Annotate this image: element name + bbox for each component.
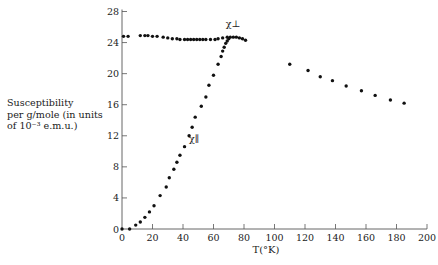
data-point	[192, 38, 195, 41]
data-point	[238, 36, 241, 39]
data-point	[134, 223, 137, 226]
y-tick-label: 24	[107, 37, 119, 48]
series-label: χ⊥	[226, 18, 241, 29]
data-point	[186, 38, 189, 41]
data-point	[213, 38, 216, 41]
data-point	[161, 35, 164, 38]
data-point	[120, 227, 123, 230]
data-point	[288, 63, 291, 66]
data-point	[360, 89, 363, 92]
data-point	[244, 39, 247, 42]
x-tick-label: 180	[387, 232, 405, 243]
data-point	[139, 220, 142, 223]
data-point	[126, 35, 129, 38]
susceptibility-chart: 0204060801001201401601802000481216202428…	[0, 0, 438, 265]
data-point	[166, 36, 169, 39]
data-point	[219, 55, 222, 58]
data-point	[183, 145, 186, 148]
data-points	[120, 34, 406, 231]
data-point	[235, 35, 238, 38]
data-point	[122, 35, 125, 38]
data-point	[158, 194, 161, 197]
data-point	[344, 84, 347, 87]
data-point	[178, 38, 181, 41]
data-point	[200, 105, 203, 108]
data-point	[389, 98, 392, 101]
data-point	[209, 38, 212, 41]
y-tick-label: 16	[107, 99, 119, 110]
data-point	[194, 115, 197, 118]
data-point	[128, 227, 131, 230]
data-point	[222, 46, 225, 49]
data-point	[148, 210, 151, 213]
data-point	[189, 38, 192, 41]
data-point	[204, 95, 207, 98]
data-point	[172, 167, 175, 170]
y-tick-label: 4	[113, 192, 119, 203]
data-point	[183, 38, 186, 41]
x-axis-title: T(°K)	[253, 244, 280, 255]
data-point	[165, 185, 168, 188]
axes	[122, 10, 427, 230]
x-tick-label: 0	[119, 232, 125, 243]
x-tick-label: 40	[177, 232, 189, 243]
x-tick-label: 200	[418, 232, 436, 243]
data-point	[152, 204, 155, 207]
x-tick-label: 160	[357, 232, 375, 243]
data-point	[190, 126, 193, 129]
data-point	[146, 34, 149, 37]
data-point	[221, 49, 224, 52]
data-point	[373, 94, 376, 97]
x-tick-label: 140	[326, 232, 344, 243]
data-point	[201, 38, 204, 41]
x-tick-label: 80	[238, 232, 250, 243]
data-point	[139, 34, 142, 37]
data-point	[168, 176, 171, 179]
y-tick-label: 28	[107, 6, 119, 17]
data-point	[319, 75, 322, 78]
series-label: χ∥	[189, 133, 199, 144]
data-point	[216, 37, 219, 40]
axis-ticks: 0204060801001201401601802000481216202428	[107, 6, 436, 243]
data-point	[331, 79, 334, 82]
y-tick-label: 12	[107, 130, 119, 141]
data-point	[178, 154, 181, 157]
x-tick-label: 100	[265, 232, 283, 243]
y-tick-label: 8	[113, 161, 119, 172]
data-point	[306, 69, 309, 72]
data-point	[227, 37, 230, 40]
series-1	[120, 37, 230, 231]
data-point	[402, 101, 405, 104]
data-point	[175, 37, 178, 40]
data-point	[212, 73, 215, 76]
data-point	[151, 35, 154, 38]
data-point	[232, 35, 235, 38]
data-point	[195, 38, 198, 41]
data-point	[155, 35, 158, 38]
data-point	[175, 160, 178, 163]
y-tick-label: 0	[113, 224, 119, 235]
series-2	[288, 63, 406, 105]
y-tick-label: 20	[107, 68, 119, 79]
data-point	[198, 38, 201, 41]
data-point	[207, 84, 210, 87]
data-point	[204, 38, 207, 41]
data-point	[171, 37, 174, 40]
x-tick-label: 120	[296, 232, 314, 243]
data-point	[241, 37, 244, 40]
x-tick-label: 60	[207, 232, 219, 243]
data-point	[216, 63, 219, 66]
data-point	[143, 216, 146, 219]
data-point	[143, 34, 146, 37]
x-tick-label: 20	[146, 232, 158, 243]
data-point	[221, 36, 224, 39]
